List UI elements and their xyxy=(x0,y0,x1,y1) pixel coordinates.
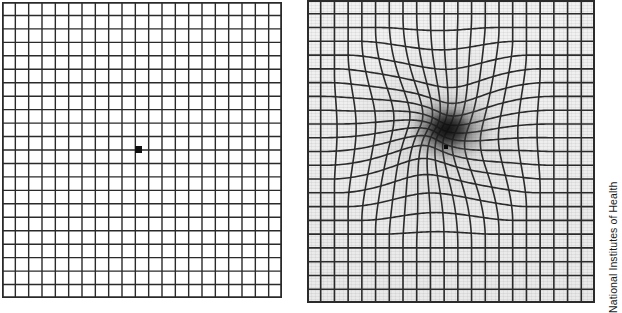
distorted-grid-lines xyxy=(307,0,595,303)
amsler-grid-figure: National Eye Institute, National Institu… xyxy=(0,0,622,313)
fixation-dot-normal xyxy=(135,146,142,153)
amsler-grid-distorted xyxy=(307,0,595,303)
credit-line: National Eye Institute, National Institu… xyxy=(606,7,620,307)
fixation-dot-distorted xyxy=(444,145,448,149)
normal-grid-lines xyxy=(2,2,282,298)
amsler-grid-normal xyxy=(2,2,282,298)
credit-text: National Eye Institute, National Institu… xyxy=(607,182,619,313)
